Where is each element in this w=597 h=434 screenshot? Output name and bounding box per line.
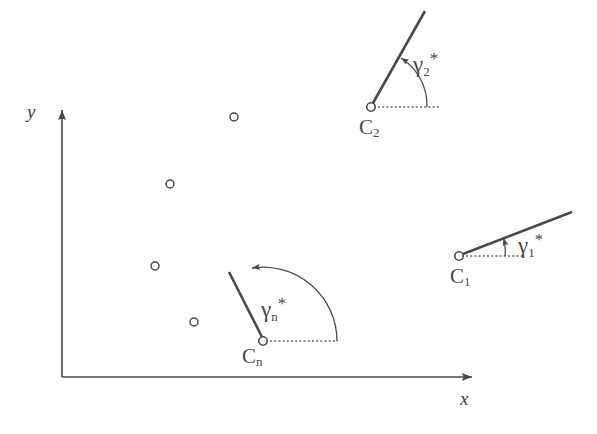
coordinate-axes <box>62 110 472 377</box>
angle-label-gamman: γn* <box>261 294 286 325</box>
point-4 <box>190 318 198 326</box>
angle-label-gamma1-sup: * <box>535 230 544 249</box>
angle-label-gamma2-symbol: γ <box>413 52 423 77</box>
cn-orientation-line <box>229 272 262 337</box>
diagram-canvas-root: y x C1 γ1* C2 γ2* Cn γn* <box>0 0 597 434</box>
diagram-svg <box>0 0 597 434</box>
angle-label-gamman-symbol: γ <box>261 297 271 322</box>
cluster-label-c2-text: C <box>359 115 373 139</box>
y-axis-label: y <box>27 101 35 123</box>
angle-label-gamma1-symbol: γ <box>518 233 528 258</box>
cluster-label-cn-text: C <box>242 344 256 368</box>
c1-vertex-marker <box>455 252 463 260</box>
angle-label-gamman-sup: * <box>278 294 287 313</box>
angle-label-gamma1: γ1* <box>518 230 543 261</box>
point-3 <box>151 262 159 270</box>
c2-vertex-marker <box>367 103 375 111</box>
angle-label-gamma2: γ2* <box>413 49 438 80</box>
cluster-label-c2: C2 <box>359 115 380 141</box>
cluster-label-cn: Cn <box>242 344 263 370</box>
point-1 <box>230 113 238 121</box>
point-2 <box>166 180 174 188</box>
cluster-label-c1-text: C <box>450 264 464 288</box>
x-axis-label: x <box>460 388 468 410</box>
cluster-c1-group <box>455 212 572 260</box>
c1-angle-arc <box>504 238 506 256</box>
angle-label-gamma2-sup: * <box>430 49 439 68</box>
cluster-label-c2-sub: 2 <box>373 125 380 140</box>
cluster-label-c1-sub: 1 <box>464 274 471 289</box>
cluster-label-c1: C1 <box>450 264 471 290</box>
cluster-label-cn-sub: n <box>256 354 263 369</box>
scatter-points <box>151 113 238 326</box>
